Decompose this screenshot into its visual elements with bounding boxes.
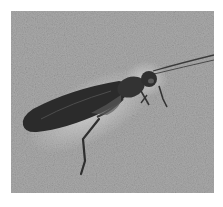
- fossil-insect-illustration: [11, 11, 214, 193]
- insect-head: [141, 71, 157, 87]
- fossil-photo: [11, 11, 214, 193]
